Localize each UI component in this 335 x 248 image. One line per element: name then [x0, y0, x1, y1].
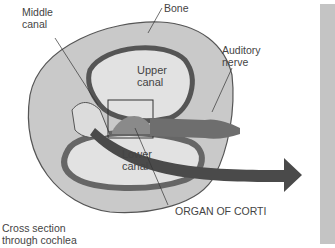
- label-upper-canal: Upper canal: [137, 64, 167, 88]
- caption: Cross section through cochlea: [2, 222, 77, 246]
- label-lower-canal: Lower canal: [122, 148, 152, 172]
- label-middle-canal: Middle canal: [22, 6, 53, 30]
- label-bone: Bone: [164, 2, 189, 14]
- label-auditory-nerve: Auditory nerve: [222, 44, 261, 68]
- cochlea-cross-section: [0, 0, 335, 248]
- label-organ-of-corti: ORGAN OF CORTI: [175, 205, 266, 217]
